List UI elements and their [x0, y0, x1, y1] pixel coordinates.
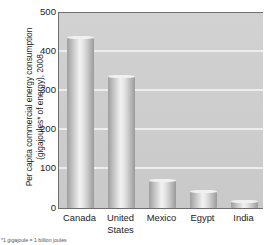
y-tick-label: 200: [26, 124, 56, 134]
x-tick-label-line: States: [81, 224, 161, 236]
bar-top-cap: [149, 179, 176, 182]
y-tick-label: 400: [26, 46, 56, 56]
bar: [108, 76, 135, 208]
bar-series: [59, 13, 263, 208]
bar: [149, 180, 176, 208]
bar-top-cap: [67, 36, 94, 39]
y-tick-label: 100: [26, 163, 56, 173]
y-tick-label: 500: [26, 7, 56, 17]
x-tick-label-line: India: [233, 212, 253, 223]
bar: [67, 37, 94, 208]
y-tick-label: 300: [26, 85, 56, 95]
x-axis-categories: CanadaUnitedStatesMexicoEgyptIndia: [58, 212, 263, 238]
x-tick-label: India: [204, 212, 264, 224]
bar-top-cap: [108, 75, 135, 78]
bar-top-cap: [231, 200, 258, 203]
y-tick-label: 0: [26, 203, 56, 213]
bar-chart-figure: Per capita commercial energy consumption…: [0, 0, 263, 245]
bar: [190, 191, 217, 208]
bar-top-cap: [190, 190, 217, 193]
footnote: *1 gigajoule = 1 billion joules: [1, 237, 67, 243]
bar: [231, 201, 258, 208]
y-axis-ticks: 0100200300400500: [24, 0, 56, 245]
plot-area: [58, 12, 263, 209]
